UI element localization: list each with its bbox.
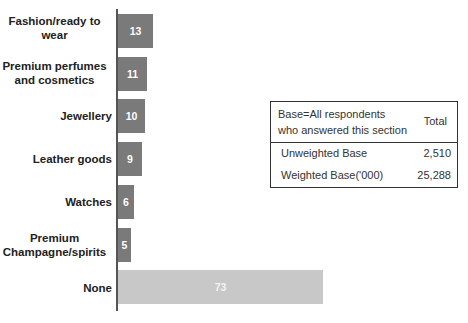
category-label: None — [0, 281, 112, 295]
row-value: 25,288 — [417, 169, 451, 181]
label-line: Jewellery — [0, 109, 112, 123]
category-label: Premium Champagne/spirits — [0, 231, 112, 259]
category-label: Fashion/ready to wear — [0, 14, 112, 42]
bar-fashion: 13 — [118, 14, 153, 48]
label-line: and cosmetics — [0, 73, 112, 87]
category-label: Leather goods — [0, 152, 112, 166]
bar-champagne: 5 — [118, 228, 131, 262]
bar-value: 5 — [122, 239, 128, 251]
row-value: 2,510 — [423, 147, 451, 159]
table-row: Unweighted Base 2,510 — [271, 143, 457, 165]
label-line: None — [0, 281, 112, 295]
total-header: Total — [424, 115, 447, 127]
bar-value: 13 — [130, 25, 142, 37]
base-table-header: Base=All respondents who answered this s… — [271, 102, 457, 143]
bar-jewellery: 10 — [118, 99, 145, 133]
table-row: Weighted Base('000) 25,288 — [271, 165, 457, 187]
bar-value: 6 — [123, 196, 129, 208]
category-label: Premium perfumes and cosmetics — [0, 59, 112, 87]
label-line: wear — [0, 28, 112, 42]
row-label: Unweighted Base — [281, 147, 367, 159]
label-line: Premium — [0, 231, 112, 245]
label-line: Leather goods — [0, 152, 112, 166]
base-description: Base=All respondents who answered this s… — [278, 106, 408, 138]
label-line: Premium perfumes — [0, 59, 112, 73]
bar-perfumes: 11 — [118, 57, 147, 91]
base-table: Base=All respondents who answered this s… — [270, 101, 458, 188]
row-label: Weighted Base('000) — [281, 169, 383, 181]
bar-value: 10 — [126, 110, 138, 122]
label-line: Watches — [0, 195, 112, 209]
bar-watches: 6 — [118, 185, 134, 219]
bar-none: 73 — [118, 270, 323, 304]
bar-leather: 9 — [118, 142, 142, 176]
label-line: Fashion/ready to — [0, 14, 112, 28]
category-label: Jewellery — [0, 109, 112, 123]
bar-value: 73 — [215, 281, 227, 293]
category-label: Watches — [0, 195, 112, 209]
bar-value: 11 — [127, 68, 138, 80]
label-line: Champagne/spirits — [0, 245, 112, 259]
bar-value: 9 — [127, 153, 133, 165]
